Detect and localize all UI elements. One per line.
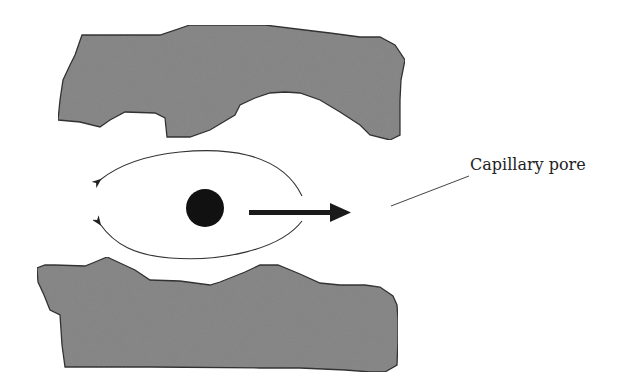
capillary-pore-label: Capillary pore (470, 155, 586, 174)
curved-arrow-upper-left (100, 151, 302, 196)
thick-arrow-right (249, 203, 351, 222)
particle (186, 189, 224, 227)
curved-arrow-lower-left (100, 221, 302, 259)
capillary-pore-diagram (0, 0, 632, 392)
solid-grain-top (58, 25, 405, 140)
label-leader-line (391, 176, 469, 206)
solid-grain-bottom (37, 257, 398, 372)
